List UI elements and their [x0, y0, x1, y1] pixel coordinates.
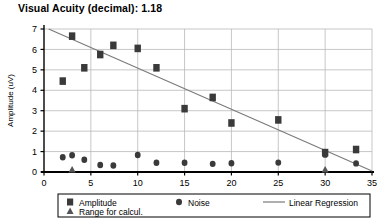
x-tick-label: 0 [41, 178, 46, 188]
x-tick-label: 25 [273, 178, 283, 188]
amplitude-point [110, 42, 116, 50]
chart-legend: AmplitudeNoiseLinear RegressionRange for… [58, 194, 370, 217]
y-tick-label: 0 [32, 167, 37, 177]
y-tick-label: 4 [32, 85, 37, 95]
noise-point [110, 162, 116, 168]
amplitude-point [181, 105, 187, 113]
amplitude-point [97, 51, 103, 59]
amplitude-point [353, 146, 359, 154]
chart-container: Visual Acuity (decimal): 1.18 0123456705… [0, 0, 379, 219]
y-tick-label: 2 [32, 126, 37, 136]
y-tick-label: 5 [32, 65, 37, 75]
amplitude-point [275, 116, 281, 124]
x-tick-label: 35 [367, 178, 377, 188]
noise-point [135, 152, 141, 158]
range-marker [69, 166, 76, 173]
x-tick-label: 15 [180, 178, 190, 188]
y-axis-title-text: Amplitude (uV) [6, 74, 15, 127]
amplitude-series [60, 32, 360, 156]
amplitude-point [135, 45, 141, 53]
legend-range-label: Range for calcul. [79, 207, 143, 217]
y-tick-label: 7 [32, 24, 37, 34]
noise-point [81, 157, 87, 163]
amplitude-point [153, 64, 159, 72]
x-tick-label: 10 [133, 178, 143, 188]
noise-series [60, 151, 359, 168]
y-tick-label: 3 [32, 106, 37, 116]
y-axis-title: Amplitude (uV) [6, 74, 15, 127]
amplitude-point [60, 77, 66, 85]
y-tick-label: 1 [32, 147, 37, 157]
amplitude-point [228, 119, 234, 127]
legend-amplitude-swatch [67, 199, 73, 206]
x-tick-label: 5 [88, 178, 93, 188]
noise-point [275, 159, 281, 165]
noise-point [97, 162, 103, 168]
noise-point [154, 160, 160, 166]
noise-point [229, 160, 235, 166]
legend-regression-label: Linear Regression [289, 198, 358, 208]
noise-point [182, 160, 188, 166]
amplitude-point [209, 94, 215, 102]
noise-point [60, 154, 66, 160]
legend-noise-swatch [176, 199, 182, 206]
noise-point [69, 152, 75, 158]
noise-point [210, 161, 216, 167]
legend-noise-label: Noise [188, 198, 210, 208]
chart-plot: 0123456705101520253035 Amplitude (uV) Am… [0, 0, 379, 219]
amplitude-point [322, 149, 328, 157]
amplitude-point [69, 32, 75, 40]
range-marker [322, 166, 329, 173]
y-tick-label: 6 [32, 45, 37, 55]
amplitude-point [81, 64, 87, 72]
x-tick-label: 20 [226, 178, 236, 188]
x-tick-label: 30 [320, 178, 330, 188]
noise-point [353, 160, 359, 166]
